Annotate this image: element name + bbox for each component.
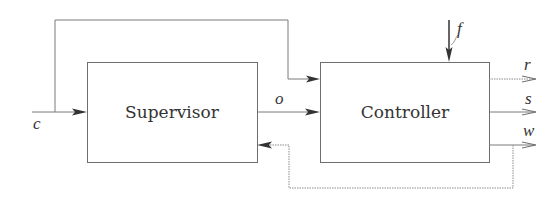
- o-wire: [257, 109, 320, 116]
- signal-label-r: r: [524, 55, 531, 74]
- controller-label: Controller: [361, 102, 450, 122]
- supervisor-block: Supervisor: [88, 63, 258, 163]
- s-output-wire: [489, 109, 536, 115]
- supervisor-label: Supervisor: [125, 102, 220, 122]
- signal-label-o: o: [275, 89, 284, 108]
- signal-label-f: f: [457, 19, 464, 38]
- controller-block: Controller: [321, 63, 490, 163]
- arrowhead-icon: [257, 142, 272, 149]
- signal-label-w: w: [523, 121, 535, 140]
- block-diagram: Supervisor Controller c o f r s w: [0, 0, 559, 200]
- signal-label-c: c: [33, 114, 41, 133]
- r-output-wire: [489, 76, 536, 82]
- signal-label-s: s: [525, 89, 532, 108]
